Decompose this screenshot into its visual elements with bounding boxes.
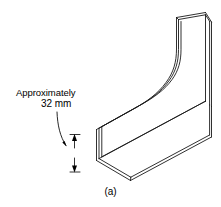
- floor-left-end-bottom-edge-inner: [99, 159, 131, 178]
- vertical-wall-outer-back-edge: [97, 18, 177, 130]
- floor-front-bottom-edge-inner: [131, 135, 210, 177]
- arrow-down-icon: [72, 166, 77, 173]
- figure-caption: (a): [0, 186, 221, 197]
- floor-left-end-bottom-edge: [97, 161, 131, 181]
- vertical-wall-inner-back-edge: [99, 20, 179, 129]
- bend-inner-surface-line: [102, 22, 181, 127]
- callout-label-line1: Approximately: [16, 87, 76, 98]
- part-outline-group: [97, 13, 212, 181]
- top-rim-back-edge: [177, 13, 206, 18]
- floor-front-bottom-edge: [131, 137, 212, 181]
- floor-top-front-edge: [99, 101, 206, 158]
- top-rim-back-edge-inner: [179, 15, 206, 20]
- figure-container: Approximately 32 mm (a): [0, 0, 221, 207]
- top-rim-right-edge: [206, 13, 212, 23]
- leader-line: [57, 112, 66, 146]
- technical-drawing: [0, 0, 221, 207]
- arrow-up-icon: [72, 134, 77, 141]
- leader-arrow-icon: [62, 141, 66, 147]
- dimension-annotation-group: [57, 112, 80, 173]
- callout-label-line2: 32 mm: [41, 98, 71, 109]
